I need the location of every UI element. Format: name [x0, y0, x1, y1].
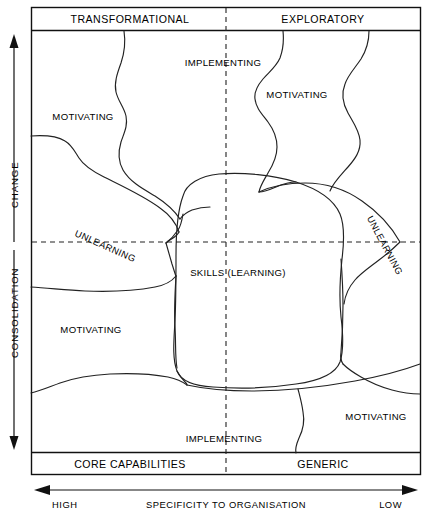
label-implementing-bottom-center: IMPLEMENTING [186, 433, 263, 444]
label-skills-learning: SKILLS (LEARNING) [190, 267, 286, 278]
axis-end-low: LOW [379, 499, 402, 510]
boundary-bl-upper-horizontal [31, 276, 176, 291]
horizontal-axis: HIGH SPECIFICITY TO ORGANISATION LOW [34, 485, 418, 510]
label-motivating-top-right: MOTIVATING [266, 89, 327, 100]
boundary-bc-horizontal [187, 364, 420, 391]
label-motivating-bottom-left: MOTIVATING [60, 324, 121, 335]
matrix-diagram: TRANSFORMATIONAL EXPLORATORY CORE CAPABI… [0, 0, 432, 520]
label-unlearning-left: UNLEARNING [73, 227, 137, 264]
axis-label-specificity: SPECIFICITY TO ORGANISATION [146, 499, 306, 510]
consolidation-arrow-head [10, 436, 19, 450]
label-unlearning-right: UNLEARNING [365, 214, 405, 277]
diagram-canvas: TRANSFORMATIONAL EXPLORATORY CORE CAPABI… [0, 0, 432, 520]
boundary-br-vertical [296, 389, 304, 453]
boundary-bottom-shoulder-left [177, 371, 187, 385]
boundary-tl-horizontal [31, 136, 179, 232]
label-motivating-bottom-right: MOTIVATING [345, 411, 406, 422]
header-transformational: TRANSFORMATIONAL [71, 13, 190, 25]
boundary-tl-vertical [115, 31, 180, 219]
axis-label-change: CHANGE [9, 162, 20, 208]
footer-core-capabilities: CORE CAPABILITIES [74, 458, 186, 470]
change-arrow-head [10, 34, 19, 48]
vertical-axis: CHANGE CONSOLIDATION [9, 34, 20, 450]
boundary-blob-left-flank [175, 276, 177, 368]
header-exploratory: EXPLORATORY [281, 13, 364, 25]
footer-generic: GENERIC [297, 458, 348, 470]
label-motivating-top-left: MOTIVATING [52, 111, 113, 122]
boundary-tl-notch [180, 207, 210, 219]
axis-end-high: HIGH [52, 499, 77, 510]
boundary-tr-vertical [330, 31, 369, 191]
specificity-arrow-head-left [34, 485, 50, 495]
axis-label-consolidation: CONSOLIDATION [9, 268, 20, 358]
specificity-arrow-head-right [402, 485, 418, 495]
skills-cell-outline [174, 173, 344, 388]
boundary-tc-tr-vertical [255, 31, 284, 192]
boundary-left-unlearning [166, 243, 176, 276]
boundary-bl-lower-horizontal [31, 374, 187, 393]
label-implementing-top-center: IMPLEMENTING [185, 57, 262, 68]
